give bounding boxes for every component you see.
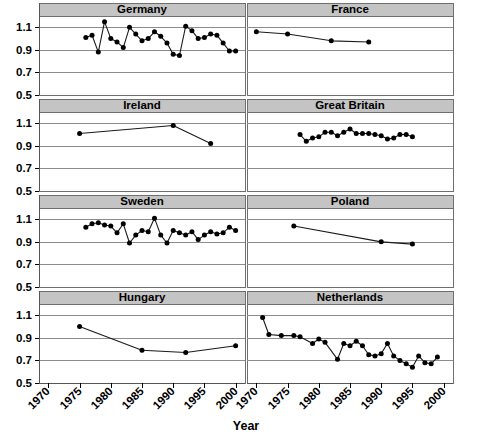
data-point (422, 360, 427, 365)
data-point (385, 137, 390, 142)
data-point (404, 361, 409, 366)
data-point (77, 131, 82, 136)
data-point (158, 233, 163, 238)
panel-title-label: Great Britain (315, 99, 385, 111)
data-point (183, 233, 188, 238)
data-point (189, 28, 194, 33)
data-point (196, 237, 201, 242)
data-point (177, 230, 182, 235)
small-multiples-line-chart: GermanyFranceIrelandGreat BritainSwedenP… (0, 0, 491, 437)
data-point (291, 333, 296, 338)
data-point (115, 39, 120, 44)
panel-title-label: Sweden (120, 195, 163, 207)
data-point (341, 341, 346, 346)
data-point (348, 126, 353, 131)
data-point (298, 334, 303, 339)
data-point (335, 357, 340, 362)
data-point (102, 222, 107, 227)
data-point (366, 39, 371, 44)
data-point (183, 350, 188, 355)
data-point (133, 32, 138, 37)
data-point (127, 25, 132, 30)
data-point (121, 45, 126, 50)
data-point (335, 133, 340, 138)
data-point (115, 230, 120, 235)
panel-title-label: Ireland (123, 99, 161, 111)
data-point (360, 343, 365, 348)
series-line (80, 327, 236, 353)
series-line (263, 318, 438, 368)
data-point (140, 348, 145, 353)
data-point (140, 228, 145, 233)
panel-sweden: Sweden (39, 195, 245, 287)
data-point (435, 355, 440, 360)
data-point (96, 220, 101, 225)
data-point (158, 34, 163, 39)
data-point (316, 134, 321, 139)
data-point (291, 224, 296, 229)
data-point (372, 353, 377, 358)
data-point (372, 132, 377, 137)
data-point (298, 132, 303, 137)
data-point (108, 224, 113, 229)
data-point (183, 24, 188, 29)
series-line (80, 126, 211, 144)
data-point (140, 38, 145, 43)
data-point (397, 132, 402, 137)
panel-title-label: Netherlands (317, 291, 383, 303)
data-point (196, 36, 201, 41)
data-point (146, 36, 151, 41)
chart-root: GermanyFranceIrelandGreat BritainSwedenP… (0, 0, 491, 437)
panel-title-label: France (331, 3, 369, 15)
data-point (404, 132, 409, 137)
data-point (233, 48, 238, 53)
data-point (397, 358, 402, 363)
data-point (121, 221, 126, 226)
panel-ireland: Ireland (39, 99, 245, 191)
data-point (127, 240, 132, 245)
data-point (329, 130, 334, 135)
data-point (221, 230, 226, 235)
data-point (341, 130, 346, 135)
data-point (279, 333, 284, 338)
data-point (227, 48, 232, 53)
data-point (189, 229, 194, 234)
panel-netherlands: Netherlands (247, 291, 453, 383)
data-point (379, 351, 384, 356)
data-point (260, 315, 265, 320)
data-point (366, 352, 371, 357)
data-point (348, 343, 353, 348)
data-point (202, 233, 207, 238)
data-point (133, 233, 138, 238)
data-point (323, 340, 328, 345)
data-point (391, 353, 396, 358)
data-point (304, 139, 309, 144)
data-point (102, 19, 107, 24)
data-point (164, 240, 169, 245)
data-point (83, 225, 88, 230)
data-point (285, 32, 290, 37)
data-point (429, 361, 434, 366)
data-point (354, 339, 359, 344)
panel-great-britain: Great Britain (247, 99, 453, 191)
data-point (108, 36, 113, 41)
data-point (233, 228, 238, 233)
data-point (202, 35, 207, 40)
data-point (152, 216, 157, 221)
data-point (316, 336, 321, 341)
data-point (164, 41, 169, 46)
data-point (96, 50, 101, 55)
series-line (294, 226, 413, 244)
data-point (379, 239, 384, 244)
series-line (86, 218, 236, 243)
panel-poland: Poland (247, 195, 453, 287)
data-point (227, 225, 232, 230)
data-point (208, 229, 213, 234)
data-point (360, 131, 365, 136)
data-point (354, 131, 359, 136)
data-point (146, 229, 151, 234)
data-point (177, 53, 182, 58)
series-line (256, 32, 368, 42)
data-point (323, 130, 328, 135)
data-point (171, 228, 176, 233)
